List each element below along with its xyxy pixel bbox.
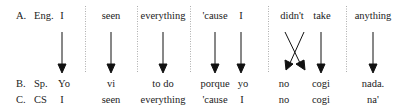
word-b-0: Yo (58, 79, 70, 90)
arrows (58, 32, 377, 73)
row-c-lang: CS (34, 95, 47, 106)
word-a-6: take (313, 11, 331, 22)
word-b-6: cogi (312, 79, 330, 90)
word-c-0: I (60, 95, 64, 106)
word-a-7: anything (355, 11, 392, 22)
word-c-2: everything (141, 95, 186, 106)
word-c-5: no (279, 95, 290, 106)
row-b-label: B. (16, 79, 26, 90)
word-c-6: cogi (312, 95, 330, 106)
word-b-3: porque (200, 79, 229, 90)
word-a-4: I (239, 11, 243, 22)
word-b-5: no (279, 79, 290, 90)
word-a-1: seen (102, 11, 121, 22)
word-b-7: nada. (362, 79, 384, 90)
word-c-1: seen (102, 95, 121, 106)
word-a-2: everything (141, 11, 186, 22)
word-b-2: to do (152, 79, 173, 90)
word-a-0: I (60, 11, 64, 22)
row-a-lang: Eng. (34, 11, 54, 22)
word-c-4: I (240, 95, 244, 106)
word-a-5: didn't (280, 11, 303, 22)
word-b-4: yo (238, 79, 249, 90)
word-c-7: na' (367, 95, 379, 106)
word-b-1: vi (107, 79, 115, 90)
word-c-3: 'cause (202, 95, 227, 106)
row-c-label: C. (16, 95, 26, 106)
word-a-3: 'cause (202, 11, 227, 22)
row-b-lang: Sp. (34, 79, 48, 90)
row-a-label: A. (16, 11, 26, 22)
